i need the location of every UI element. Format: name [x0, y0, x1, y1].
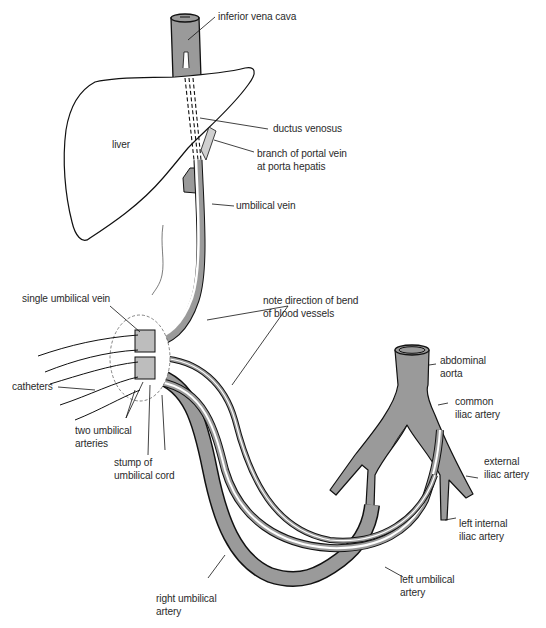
liver	[64, 68, 254, 295]
label-inferior-vena-cava: inferior vena cava	[218, 10, 296, 23]
label-abdominal-aorta: abdominal aorta	[440, 354, 486, 380]
label-catheters: catheters	[12, 380, 53, 393]
inferior-vena-cava	[171, 14, 201, 78]
label-two-umbilical-arteries: two umbilical arteries	[75, 424, 132, 450]
label-note-direction: note direction of bend of blood vessels	[263, 294, 358, 320]
label-stump-umbilical-cord: stump of umbilical cord	[114, 456, 175, 482]
label-left-internal-iliac-artery: left internal iliac artery	[459, 517, 507, 543]
label-single-umbilical-vein: single umbilical vein	[22, 292, 110, 305]
umbilical-catheter-diagram: inferior vena cava liver ductus venosus …	[0, 0, 546, 628]
label-liver: liver	[112, 138, 130, 151]
label-common-iliac-artery: common iliac artery	[455, 395, 500, 421]
label-umbilical-vein: umbilical vein	[236, 199, 296, 212]
label-external-iliac-artery: external iliac artery	[484, 455, 529, 481]
label-right-umbilical-artery: right umbilical artery	[156, 592, 217, 618]
label-ductus-venosus: ductus venosus	[273, 122, 342, 135]
label-branch-portal-vein: branch of portal vein at porta hepatis	[257, 147, 347, 173]
label-left-umbilical-artery: left umbilical artery	[400, 573, 454, 599]
